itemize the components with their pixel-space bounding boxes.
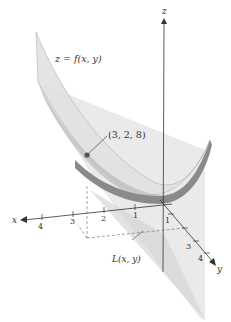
tangent-plane-diagram: z x 4 3 2 1 y 1 3 4 (3, 2, 8) z = f(x, y… — [0, 0, 231, 322]
x-tick-4: 4 — [38, 222, 43, 231]
x-tick-3: 3 — [70, 217, 75, 226]
y-tick-4: 4 — [198, 254, 203, 263]
point-label: (3, 2, 8) — [108, 129, 146, 140]
y-tick-3: 3 — [186, 242, 191, 251]
x-tick-2: 2 — [101, 214, 106, 223]
x-axis-label: x — [12, 215, 17, 225]
y-axis-label: y — [216, 264, 223, 274]
y-tick-1: 1 — [165, 216, 170, 225]
z-axis-arrow-icon — [161, 18, 167, 24]
x-axis-arrow-icon — [20, 216, 27, 223]
tangent-plane-label: L(x, y) — [111, 254, 141, 264]
z-axis-label: z — [161, 6, 167, 16]
y-axis-arrow-icon — [209, 258, 216, 266]
x-tick-1: 1 — [133, 211, 138, 220]
surface-label: z = f(x, y) — [54, 53, 102, 64]
